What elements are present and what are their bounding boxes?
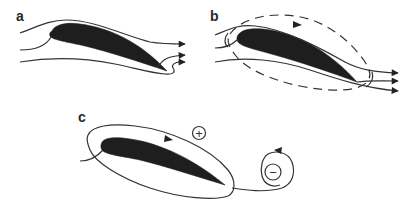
airfoil-a [50,23,167,71]
streamline-trailing-a [158,55,185,67]
airfoil-circulation-diagram: a b c [0,0,416,206]
airfoil-c [101,138,225,185]
panel-label-a: a [16,8,24,24]
airfoil-b [237,29,357,82]
panel-label-b: b [210,8,219,24]
streamline-stagnation-a [20,37,51,50]
plus-sign: + [195,126,203,141]
bound-circulation-arrow [164,135,173,142]
minus-sign-circle: − [265,164,281,180]
circulation-arrow-b [293,21,302,28]
minus-sign: − [269,165,277,180]
streamline-trailing-b [357,81,398,82]
panel-b: b [210,8,398,91]
vortex-arrow [274,147,282,154]
plus-sign-circle: + [193,126,206,141]
panel-label-c: c [78,109,86,125]
panel-a: a [16,8,185,74]
wake-line [232,152,294,191]
incoming-line-c [80,150,103,161]
panel-c: c + − [78,109,294,198]
